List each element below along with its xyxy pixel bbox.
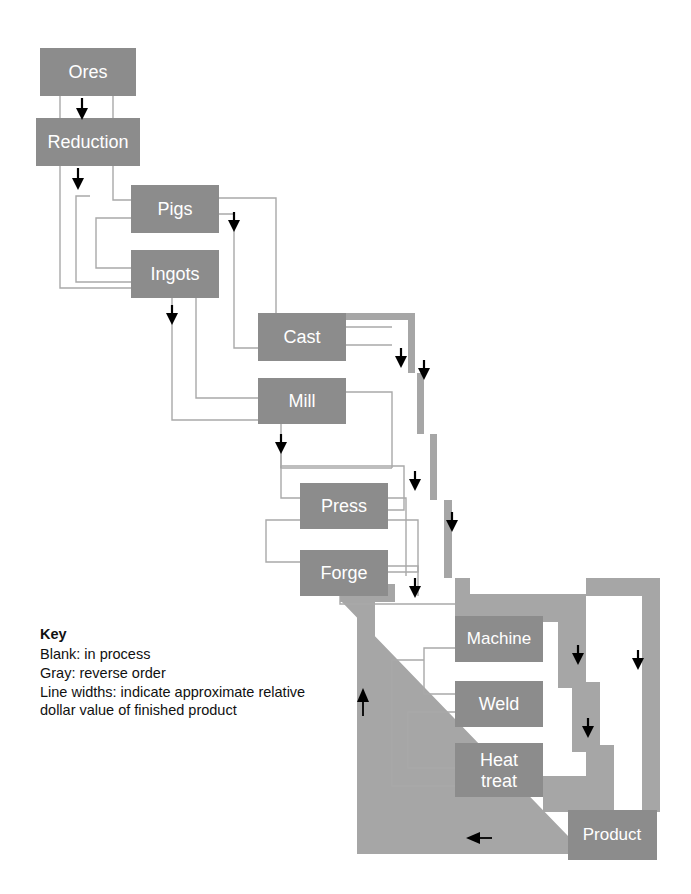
arrow-mill-to-press-icon [275,434,287,454]
arrow-ingots-to-mill-icon [166,305,178,325]
process-nodes: Ores Reduction Pigs Ingots Cast Mill Pre… [36,48,657,860]
line-ingots-loop [76,196,131,282]
line-machine-loop [424,648,455,694]
line-pigs-right-b [219,214,258,348]
node-forge[interactable]: Forge [300,550,388,596]
node-press[interactable]: Press [300,483,388,529]
node-cast[interactable]: Cast [258,313,346,361]
arrow-press-branch-icon [409,471,421,491]
process-flow-diagram: Ores Reduction Pigs Ingots Cast Mill Pre… [0,0,691,894]
line-mill-down-a [281,424,392,468]
arrow-ores-to-reduction-icon [76,98,88,120]
line-ingots-down-a [172,298,258,420]
line-reduction-right-rail [113,166,131,200]
node-reduction[interactable]: Reduction [36,118,140,166]
flow-diagram-canvas: Ores Reduction Pigs Ingots Cast Mill Pre… [0,0,691,894]
key-line-widths-b: dollar value of finished product [40,701,340,720]
line-mill-right [346,392,392,468]
key-legend: Key Blank: in process Gray: reverse orde… [40,625,340,720]
key-title: Key [40,625,340,644]
arrow-reduction-to-pigs-icon [72,168,84,190]
node-product[interactable]: Product [568,810,657,860]
node-mill[interactable]: Mill [258,378,346,424]
node-pigs[interactable]: Pigs [131,185,219,233]
node-machine[interactable]: Machine [455,616,543,662]
band-left-riser [357,600,375,854]
node-ingots[interactable]: Ingots [131,250,219,298]
line-pigs-right-a [219,198,276,313]
key-line-blank: Blank: in process [40,645,340,664]
node-ores[interactable]: Ores [40,48,136,96]
arrow-pigs-to-cast-icon [228,212,240,232]
band-bottom-rail [357,836,568,854]
arrow-cast-down-left-icon [395,348,407,368]
band-product-stub [543,798,568,812]
arrow-forge-to-machine-icon [409,578,421,598]
key-line-gray: Gray: reverse order [40,664,340,683]
node-weld[interactable]: Weld [455,681,543,727]
line-pigs-loop [96,218,131,268]
band-machine-feed [455,594,586,616]
key-line-widths-a: Line widths: indicate approximate relati… [40,683,340,702]
node-heat-treat[interactable]: Heat treat [455,743,543,797]
